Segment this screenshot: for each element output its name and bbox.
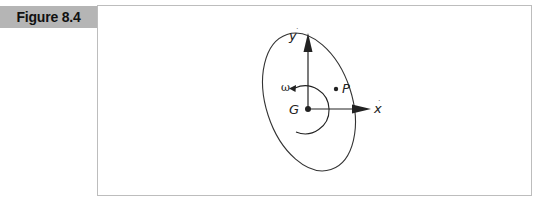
point-p-dot — [334, 87, 338, 91]
center-of-mass-label: G — [289, 102, 299, 117]
rigid-body-diagram: y · x · G P ω — [0, 0, 543, 207]
y-axis-arrowhead-icon — [304, 33, 313, 52]
point-p-label: P — [342, 81, 350, 96]
center-of-mass-dot — [305, 106, 311, 112]
angular-velocity-arrowhead-icon — [289, 85, 296, 92]
x-axis-arrowhead-icon — [352, 105, 371, 114]
y-axis-dot-mark: · — [296, 25, 298, 33]
x-axis-dot-mark: · — [378, 97, 380, 105]
angular-velocity-arc — [295, 86, 329, 134]
angular-velocity-label: ω — [281, 81, 290, 94]
